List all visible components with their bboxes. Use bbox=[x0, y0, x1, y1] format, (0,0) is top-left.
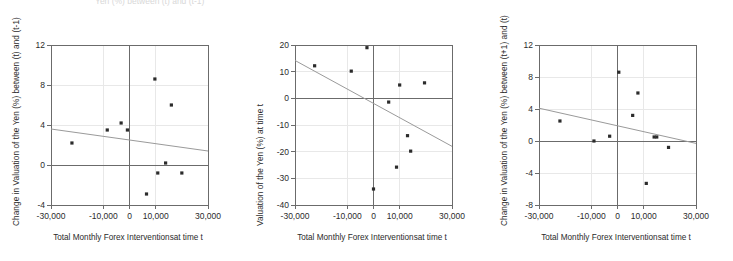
x-tick-label: 0 bbox=[127, 211, 132, 221]
data-point bbox=[70, 141, 73, 144]
data-point bbox=[592, 139, 595, 142]
x-tick-label: -30,000 bbox=[37, 211, 66, 221]
y-tick-label: -30 bbox=[277, 173, 289, 183]
y-tick-label: -10 bbox=[277, 120, 289, 130]
data-point bbox=[558, 119, 561, 122]
y-tick-label: 4 bbox=[40, 120, 45, 130]
data-point bbox=[387, 100, 390, 103]
y-tick-label: 8 bbox=[40, 80, 45, 90]
y-tick-label: -8 bbox=[525, 200, 533, 210]
x-tick-label: -10,000 bbox=[333, 211, 362, 221]
data-point bbox=[145, 192, 148, 195]
y-tick-label: -40 bbox=[277, 200, 289, 210]
x-axis-title: Total Monthly Forex Interventionsat time… bbox=[16, 233, 240, 242]
data-point bbox=[126, 128, 129, 131]
data-point bbox=[667, 146, 670, 149]
y-tick-label: 12 bbox=[524, 40, 533, 50]
data-point bbox=[170, 103, 173, 106]
chart-panel-3: -8-404812-30,000-10,000010,00030,000Tota… bbox=[488, 0, 732, 261]
x-tick-label: 0 bbox=[615, 211, 620, 221]
x-tick-label: 10,000 bbox=[387, 211, 413, 221]
x-tick-label: -10,000 bbox=[89, 211, 118, 221]
data-point bbox=[164, 161, 167, 164]
data-point bbox=[409, 150, 412, 153]
data-point bbox=[156, 171, 159, 174]
y-tick-label: -20 bbox=[277, 147, 289, 157]
y-axis-title: Change in Valuation of the Yen (%) betwe… bbox=[12, 17, 21, 226]
data-point bbox=[153, 77, 156, 80]
y-axis-title: Valuation of the Yen (%) at time t bbox=[256, 104, 265, 226]
chart-panel-2: -40-30-20-1001020-30,000-10,000010,00030… bbox=[244, 0, 488, 261]
data-point bbox=[398, 83, 401, 86]
y-tick-label: 4 bbox=[528, 104, 533, 114]
data-point bbox=[636, 91, 639, 94]
y-tick-label: 0 bbox=[284, 93, 289, 103]
y-tick-label: 0 bbox=[40, 160, 45, 170]
y-tick-label: 8 bbox=[528, 72, 533, 82]
x-tick-label: -10,000 bbox=[577, 211, 606, 221]
x-tick-label: -30,000 bbox=[525, 211, 554, 221]
data-point bbox=[106, 128, 109, 131]
y-tick-label: 12 bbox=[36, 40, 45, 50]
data-point bbox=[645, 182, 648, 185]
x-tick-label: 10,000 bbox=[143, 211, 169, 221]
data-point bbox=[120, 121, 123, 124]
x-tick-label: -30,000 bbox=[281, 211, 310, 221]
y-tick-label: 0 bbox=[528, 136, 533, 146]
x-tick-label: 30,000 bbox=[439, 211, 465, 221]
y-tick-label: 10 bbox=[280, 67, 289, 77]
y-tick-label: 20 bbox=[280, 40, 289, 50]
data-point bbox=[608, 135, 611, 138]
x-axis-title: Total Monthly Forex Interventionsat time… bbox=[260, 233, 484, 242]
x-tick-label: 30,000 bbox=[195, 211, 221, 221]
y-tick-label: -4 bbox=[525, 168, 533, 178]
data-point bbox=[180, 171, 183, 174]
data-point bbox=[631, 114, 634, 117]
data-point bbox=[350, 70, 353, 73]
data-point bbox=[365, 46, 368, 49]
y-axis-title: Change in Valuation of the Yen (%) betwe… bbox=[500, 15, 509, 226]
data-point bbox=[617, 71, 620, 74]
data-point bbox=[395, 166, 398, 169]
data-point bbox=[406, 134, 409, 137]
x-axis-title: Total Monthly Forex Interventionsat time… bbox=[504, 233, 728, 242]
x-tick-label: 0 bbox=[371, 211, 376, 221]
scatter-plot-figure: -404812-30,000-10,000010,00030,000Total … bbox=[0, 0, 733, 261]
x-tick-label: 10,000 bbox=[631, 211, 657, 221]
x-tick-label: 30,000 bbox=[683, 211, 709, 221]
data-point bbox=[423, 81, 426, 84]
y-tick-label: -4 bbox=[37, 200, 45, 210]
data-point bbox=[372, 187, 375, 190]
data-point bbox=[313, 64, 316, 67]
chart-panel-1: -404812-30,000-10,000010,00030,000Total … bbox=[0, 0, 244, 261]
data-point bbox=[655, 135, 658, 138]
